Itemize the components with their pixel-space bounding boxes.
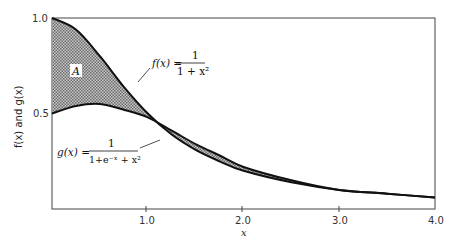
y-tick-0-5: 0.5 <box>33 108 49 119</box>
f-label-num: 1 <box>192 49 199 61</box>
y-axis-label: f(x) and g(x) <box>13 85 24 148</box>
y-tick-1-0: 1.0 <box>32 13 48 24</box>
chart: A f(x) = 1 1 + x² g(x) = 1 1+e⁻ˣ + x² 1.… <box>0 0 454 250</box>
y-axis: 1.0 0.5 f(x) and g(x) <box>13 13 49 148</box>
x-tick-2: 2.0 <box>235 215 251 226</box>
g-label-den: 1+e⁻ˣ + x² <box>89 154 141 165</box>
x-tick-3: 3.0 <box>332 215 348 226</box>
g-leader-line <box>140 140 160 148</box>
g-label-num: 1 <box>108 137 115 149</box>
x-tick-4: 4.0 <box>428 215 444 226</box>
f-curve <box>52 18 435 198</box>
f-label-den: 1 + x² <box>177 65 209 77</box>
g-label-lhs: g(x) = <box>57 146 90 158</box>
plot-frame <box>52 18 435 209</box>
x-axis: 1.0 2.0 3.0 4.0 x <box>139 206 444 238</box>
f-leader-line <box>138 68 150 82</box>
x-tick-1: 1.0 <box>139 215 155 226</box>
x-axis-label: x <box>241 227 247 238</box>
area-label: A <box>71 65 80 78</box>
